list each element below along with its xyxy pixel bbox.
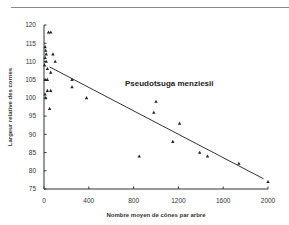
triangle-marker (154, 100, 157, 103)
data-points (43, 30, 270, 183)
triangle-marker (206, 154, 209, 157)
x-tick-label: 400 (83, 197, 94, 204)
x-tick-label: 1600 (216, 197, 231, 204)
x-tick-label: 1200 (171, 197, 186, 204)
triangle-marker (237, 162, 240, 165)
triangle-marker (46, 89, 49, 92)
axes (44, 25, 268, 189)
y-tick-label: 80 (29, 167, 37, 174)
triangle-marker (70, 85, 73, 88)
triangle-marker (49, 71, 52, 74)
axis-ticks: 7580859095100105110115120040080012001600… (25, 21, 275, 204)
y-axis-title: Largeur relative des cornes (7, 67, 13, 146)
triangle-marker (45, 52, 48, 55)
y-tick-label: 105 (25, 76, 36, 83)
triangle-marker (138, 154, 141, 157)
y-tick-label: 100 (25, 94, 36, 101)
triangle-marker (48, 107, 51, 110)
triangle-marker (266, 180, 269, 183)
scatter-chart: 7580859095100105110115120040080012001600… (0, 0, 289, 225)
y-tick-label: 120 (25, 21, 36, 28)
x-tick-label: 800 (128, 197, 139, 204)
x-tick-label: 0 (42, 197, 46, 204)
triangle-marker (152, 111, 155, 114)
triangle-marker (49, 89, 52, 92)
triangle-marker (49, 30, 52, 33)
triangle-marker (54, 60, 57, 63)
triangle-marker (43, 63, 46, 66)
triangle-marker (178, 122, 181, 125)
y-tick-label: 90 (29, 131, 37, 138)
y-tick-label: 110 (26, 58, 37, 65)
y-tick-label: 115 (26, 40, 37, 47)
triangle-marker (171, 140, 174, 143)
y-tick-label: 95 (29, 112, 37, 119)
y-tick-label: 85 (29, 149, 37, 156)
triangle-marker (198, 151, 201, 154)
triangle-marker (46, 67, 49, 70)
x-axis-title: Nombre moyen de cônes par arbre (106, 212, 206, 218)
triangle-marker (85, 96, 88, 99)
y-tick-label: 75 (29, 185, 37, 192)
x-tick-label: 2000 (261, 197, 276, 204)
triangle-marker (51, 52, 54, 55)
chart-title: Pseudotsuga menziesii (125, 79, 213, 88)
